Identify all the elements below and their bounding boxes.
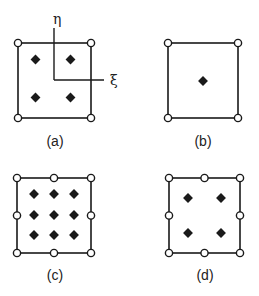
- panel-label: (c): [47, 267, 63, 283]
- diamond-icon: [66, 93, 76, 103]
- panel-label: (b): [194, 133, 211, 149]
- diamond-icon: [66, 55, 76, 65]
- node-circle-icon: [165, 212, 172, 219]
- diamond-icon: [29, 189, 39, 199]
- diamond-icon: [49, 189, 59, 199]
- diamond-icon: [31, 93, 41, 103]
- node-circle-icon: [236, 212, 243, 219]
- node-circle-icon: [87, 39, 94, 46]
- diamond-icon: [31, 55, 41, 65]
- diamond-icon: [198, 76, 208, 86]
- diamond-icon: [69, 230, 79, 240]
- node-circle-icon: [13, 174, 20, 181]
- node-circle-icon: [201, 174, 208, 181]
- node-circle-icon: [50, 174, 57, 181]
- node-circle-icon: [87, 174, 94, 181]
- node-circle-icon: [234, 114, 241, 121]
- nodes: [165, 174, 243, 256]
- node-circle-icon: [165, 249, 172, 256]
- diamond-icon: [29, 210, 39, 220]
- node-circle-icon: [13, 212, 20, 219]
- node-circle-icon: [50, 249, 57, 256]
- panel-c: (c): [13, 174, 94, 283]
- node-circle-icon: [87, 114, 94, 121]
- node-circle-icon: [236, 174, 243, 181]
- diamond-icon: [183, 228, 193, 238]
- node-circle-icon: [87, 212, 94, 219]
- panel-b: (b): [164, 39, 241, 149]
- panel-a: η ξ (a): [14, 11, 118, 149]
- node-circle-icon: [164, 114, 171, 121]
- node-circle-icon: [236, 249, 243, 256]
- node-circle-icon: [14, 39, 21, 46]
- diamond-icon: [183, 193, 193, 203]
- node-circle-icon: [14, 114, 21, 121]
- gauss-points: [29, 189, 79, 240]
- diamond-icon: [29, 230, 39, 240]
- diamond-icon: [216, 228, 226, 238]
- diamond-icon: [49, 210, 59, 220]
- node-circle-icon: [87, 249, 94, 256]
- panel-label: (a): [46, 133, 63, 149]
- panel-d: (d): [165, 174, 243, 283]
- diamond-icon: [49, 230, 59, 240]
- node-circle-icon: [234, 39, 241, 46]
- diamond-icon: [69, 210, 79, 220]
- node-circle-icon: [13, 249, 20, 256]
- gauss-points: [31, 55, 76, 103]
- eta-label: η: [53, 11, 61, 27]
- element-boundary: [169, 178, 240, 253]
- quadrilateral-elements-figure: η ξ (a) (b): [0, 0, 259, 296]
- node-circle-icon: [201, 249, 208, 256]
- diamond-icon: [69, 189, 79, 199]
- diamond-icon: [216, 193, 226, 203]
- gauss-points: [183, 193, 226, 238]
- node-circle-icon: [164, 39, 171, 46]
- panel-label: (d): [196, 267, 213, 283]
- node-circle-icon: [165, 174, 172, 181]
- xi-label: ξ: [110, 72, 118, 88]
